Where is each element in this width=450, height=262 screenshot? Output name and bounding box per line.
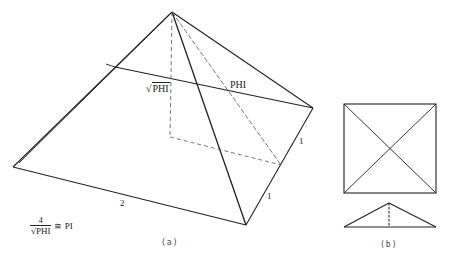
caption-b: (b) (380, 240, 397, 250)
numerator: 4 (39, 216, 43, 225)
denominator-text: PHI (36, 226, 51, 236)
pyramid-hidden-edges (170, 12, 281, 165)
phi-label: PHI (230, 80, 246, 90)
relation: ≅ PI (54, 221, 72, 231)
half-edge-lower-label: 1 (267, 191, 272, 201)
denominator: √PHI (30, 225, 51, 236)
side-view-triangle (344, 203, 436, 227)
fraction: 4 √PHI (30, 216, 51, 236)
base-edge-label: 2 (120, 198, 125, 208)
sqrt-phi-text: PHI (152, 82, 170, 94)
phi-pi-formula: 4 √PHI ≅ PI (30, 216, 73, 236)
top-view-square (344, 104, 436, 193)
sqrt-symbol: √ (146, 83, 152, 94)
half-edge-upper-label: 1 (299, 136, 304, 146)
caption-a: (a) (161, 238, 178, 248)
sqrt-phi-label: √PHI (146, 84, 170, 94)
